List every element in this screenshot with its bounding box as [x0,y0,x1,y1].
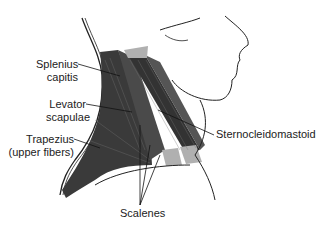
label-splenius-line2: capitis [36,71,78,84]
label-levator-scapulae: Levator scapulae [46,98,86,124]
label-trapezius-line2: (upper fibers) [8,146,74,159]
label-levator-line2: scapulae [46,111,86,124]
label-levator-line1: Levator [46,98,86,111]
label-sternocleidomastoid: Sternocleidomastoid [216,128,316,141]
label-splenius-capitis: Splenius capitis [36,58,78,84]
neck-muscle-diagram: Splenius capitis Levator scapulae Trapez… [0,0,320,225]
label-trapezius-line1: Trapezius [8,133,74,146]
label-trapezius: Trapezius (upper fibers) [8,133,74,159]
label-splenius-line1: Splenius [36,58,78,71]
label-scalenes: Scalenes [120,207,165,220]
